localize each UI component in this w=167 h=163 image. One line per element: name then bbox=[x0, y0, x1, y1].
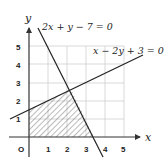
equation-label-1: 2x + y − 7 = 0 bbox=[41, 21, 113, 32]
y-tick-3: 3 bbox=[16, 79, 21, 88]
x-tick-4: 4 bbox=[103, 145, 108, 154]
y-tick-5: 5 bbox=[16, 43, 21, 52]
x-tick-3: 3 bbox=[84, 145, 89, 154]
x-tick-1: 1 bbox=[46, 145, 51, 154]
feasible-region bbox=[29, 89, 94, 137]
y-tick-4: 4 bbox=[16, 61, 21, 70]
y-axis-label: y bbox=[24, 12, 32, 25]
x-axis-label: x bbox=[145, 131, 152, 144]
x-tick-5: 5 bbox=[121, 145, 126, 154]
x-tick-2: 2 bbox=[65, 145, 70, 154]
coordinate-diagram: y x O 1 2 3 4 5 1 2 3 4 5 2x + y − 7 = 0… bbox=[0, 0, 167, 163]
origin-label: O bbox=[18, 145, 24, 154]
y-tick-2: 2 bbox=[16, 97, 21, 106]
y-tick-1: 1 bbox=[16, 115, 21, 124]
equation-label-2: x − 2y + 3 = 0 bbox=[93, 45, 164, 56]
